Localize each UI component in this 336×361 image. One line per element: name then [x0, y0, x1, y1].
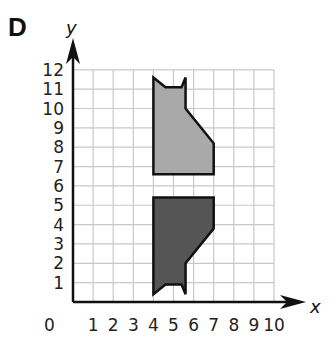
- y-tick-labels: 123456789101112: [42, 60, 64, 293]
- y-tick-label: 12: [42, 60, 64, 80]
- y-tick-label: 3: [53, 234, 64, 254]
- y-tick-label: 5: [53, 195, 64, 215]
- original-shape: [153, 78, 213, 175]
- y-tick-label: 11: [42, 79, 64, 99]
- y-tick-label: 1: [53, 273, 64, 293]
- reflected-shape: [153, 198, 213, 295]
- y-tick-label: 6: [53, 176, 64, 196]
- x-tick-label: 7: [208, 315, 219, 335]
- x-tick-label: 10: [263, 315, 285, 335]
- x-tick-label: 1: [88, 315, 99, 335]
- y-axis-label: y: [65, 17, 77, 38]
- y-tick-label: 10: [42, 99, 64, 119]
- y-tick-label: 9: [53, 118, 64, 138]
- coordinate-grid: y x 0 12345678910 123456789101112: [0, 0, 336, 361]
- x-tick-label: 2: [108, 315, 119, 335]
- x-tick-label: 6: [188, 315, 199, 335]
- y-tick-label: 2: [53, 253, 64, 273]
- origin-label: 0: [44, 315, 55, 335]
- y-tick-label: 4: [53, 215, 64, 235]
- x-tick-label: 3: [128, 315, 139, 335]
- x-tick-labels: 12345678910: [88, 315, 285, 335]
- x-tick-label: 9: [248, 315, 259, 335]
- x-tick-label: 5: [168, 315, 179, 335]
- x-tick-label: 8: [228, 315, 239, 335]
- x-tick-label: 4: [148, 315, 159, 335]
- x-axis-label: x: [309, 296, 321, 317]
- y-tick-label: 7: [53, 157, 64, 177]
- y-tick-label: 8: [53, 137, 64, 157]
